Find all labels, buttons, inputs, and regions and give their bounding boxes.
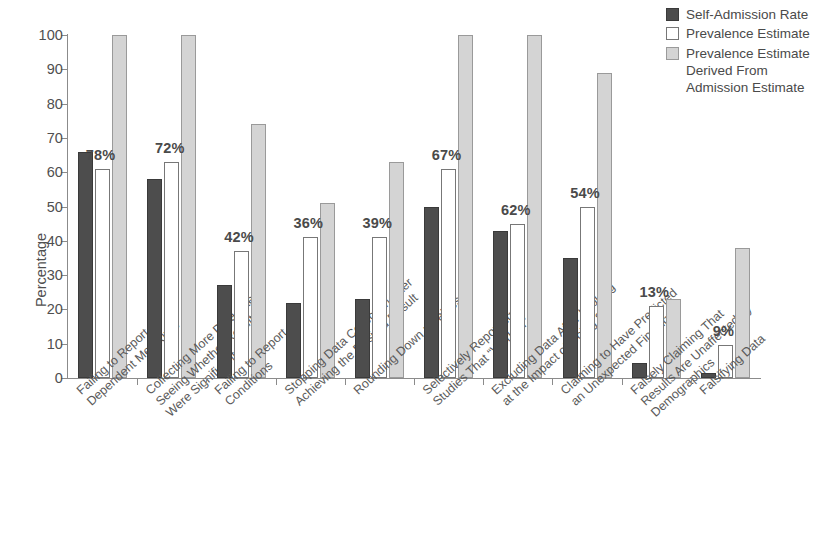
- dark-gray-swatch: [666, 8, 679, 21]
- legend-label: Prevalence EstimateDerived FromAdmission…: [686, 45, 810, 97]
- x-axis-tick: [691, 378, 692, 385]
- x-axis-tick: [137, 378, 138, 385]
- legend-label-line: Prevalence Estimate: [686, 25, 810, 42]
- y-axis-tick-label: 50: [47, 199, 63, 215]
- bar-value-label: 67%: [432, 147, 462, 163]
- x-axis-tick: [345, 378, 346, 385]
- x-axis-tick: [552, 378, 553, 385]
- bar: [164, 162, 179, 378]
- bar: [424, 207, 439, 379]
- legend-label-line: Self-Admission Rate: [686, 6, 808, 23]
- bar: [458, 35, 473, 378]
- y-axis-tick-label: 90: [47, 61, 63, 77]
- y-axis-tick-label: 100: [39, 27, 64, 43]
- bar-chart-figure: Percentage 100908070605040302010078%Fail…: [0, 0, 828, 539]
- legend-item: Prevalence Estimate: [666, 25, 810, 42]
- y-axis-tick-label: 70: [47, 130, 63, 146]
- bar: [78, 152, 93, 378]
- legend-label: Prevalence Estimate: [686, 25, 810, 42]
- y-axis-tick-label: 60: [47, 164, 63, 180]
- y-axis-tick-label: 40: [47, 233, 63, 249]
- bar: [95, 169, 110, 378]
- y-axis-tick-label: 0: [55, 370, 63, 386]
- legend-label-line: Prevalence Estimate: [686, 45, 810, 62]
- bar-value-label: 39%: [363, 215, 393, 231]
- x-axis-tick: [414, 378, 415, 385]
- bar-value-label: 13%: [639, 284, 669, 300]
- x-axis-tick: [483, 378, 484, 385]
- legend-label: Self-Admission Rate: [686, 6, 808, 23]
- legend-item: Prevalence EstimateDerived FromAdmission…: [666, 45, 810, 97]
- bar: [563, 258, 578, 378]
- bar: [441, 169, 456, 378]
- bar-value-label: 72%: [155, 140, 185, 156]
- y-axis-tick-label: 10: [47, 336, 63, 352]
- bar: [286, 303, 301, 378]
- bar: [580, 207, 595, 379]
- bar-value-label: 36%: [293, 215, 323, 231]
- legend-item: Self-Admission Rate: [666, 6, 810, 23]
- bar: [147, 179, 162, 378]
- bar-value-label: 9%: [713, 323, 734, 339]
- bar: [181, 35, 196, 378]
- x-axis-tick: [622, 378, 623, 385]
- bar: [493, 231, 508, 378]
- x-axis-tick: [276, 378, 277, 385]
- bar-value-label: 54%: [570, 185, 600, 201]
- white-swatch: [666, 27, 679, 40]
- bar-value-label: 78%: [86, 147, 116, 163]
- bar: [217, 285, 232, 378]
- bar-value-label: 62%: [501, 202, 531, 218]
- plot-area: 100908070605040302010078%Failing to Repo…: [68, 35, 760, 378]
- x-axis-tick: [206, 378, 207, 385]
- y-axis-tick-label: 20: [47, 301, 63, 317]
- light-gray-swatch: [666, 47, 679, 60]
- y-axis-tick-label: 30: [47, 267, 63, 283]
- bar: [597, 73, 612, 378]
- legend-label-line: Admission Estimate: [686, 79, 810, 96]
- bar: [355, 299, 370, 378]
- chart-legend: Self-Admission RatePrevalence EstimatePr…: [666, 6, 810, 98]
- bar-value-label: 42%: [224, 229, 254, 245]
- y-axis-tick-label: 80: [47, 96, 63, 112]
- bar: [112, 35, 127, 378]
- legend-label-line: Derived From: [686, 62, 810, 79]
